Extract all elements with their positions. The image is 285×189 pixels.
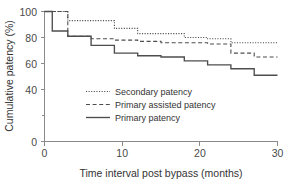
y-tick-label-60: 60 <box>25 58 37 70</box>
legend-label-primary: Primary patency <box>115 113 181 123</box>
y-tick-label-0: 0 <box>31 136 37 148</box>
chart-figure: 100 80 60 40 0 0 10 20 30 Time interval … <box>0 0 285 189</box>
cumulative-patency-chart: 100 80 60 40 0 0 10 20 30 Time interval … <box>0 0 285 189</box>
x-tick-label-10: 10 <box>116 147 128 159</box>
x-tick-marks <box>45 142 278 146</box>
series-primary-patency <box>45 12 278 76</box>
series-primary-assisted-patency <box>45 12 278 58</box>
x-axis-title: Time interval post bypass (months) <box>79 167 242 179</box>
legend-label-assisted: Primary assisted patency <box>115 100 216 110</box>
legend-item-primary-patency[interactable]: Primary patency <box>86 113 181 123</box>
x-tick-label-0: 0 <box>42 147 48 159</box>
y-tick-label-40: 40 <box>25 84 37 96</box>
y-tick-labels: 100 80 60 40 0 <box>19 6 37 148</box>
series-secondary-patency <box>45 12 278 43</box>
legend-label-secondary: Secondary patency <box>115 87 193 97</box>
y-tick-marks <box>41 12 45 142</box>
legend-item-secondary-patency[interactable]: Secondary patency <box>86 87 193 97</box>
x-tick-label-30: 30 <box>272 147 284 159</box>
y-tick-label-100: 100 <box>19 6 37 18</box>
y-axis-title: Cumulative patency (%) <box>3 20 15 131</box>
x-tick-label-20: 20 <box>194 147 206 159</box>
x-tick-labels: 0 10 20 30 <box>42 147 284 159</box>
series-group <box>45 12 278 76</box>
chart-legend: Secondary patency Primary assisted paten… <box>86 87 216 123</box>
y-tick-label-80: 80 <box>25 32 37 44</box>
legend-item-primary-assisted-patency[interactable]: Primary assisted patency <box>86 100 216 110</box>
